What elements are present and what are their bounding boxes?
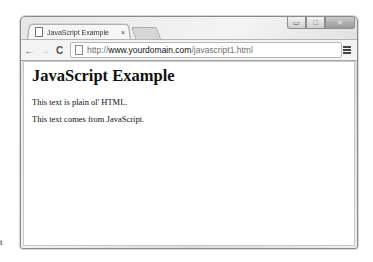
toolbar: ← → C http://www.yourdomain.com/javascri… [21, 39, 357, 61]
url-scheme: http:// [87, 45, 108, 55]
url-path: /javascript1.html [191, 45, 252, 55]
close-window-button[interactable]: ✕ [325, 17, 355, 29]
forward-button[interactable]: → [38, 43, 51, 57]
close-tab-icon[interactable]: × [121, 29, 125, 36]
maximize-icon: □ [313, 19, 317, 26]
close-icon: ✕ [337, 19, 343, 27]
hamburger-icon-bar [343, 52, 351, 54]
hamburger-icon-bar [343, 49, 351, 51]
tab-title: JavaScript Example [47, 29, 109, 36]
minimize-icon: ▭ [293, 19, 300, 27]
page-content: JavaScript Example This text is plain ol… [23, 61, 355, 246]
paragraph-javascript: This text comes from JavaScript. [32, 114, 144, 124]
forward-arrow-icon: → [40, 45, 50, 56]
reload-icon: C [56, 45, 63, 56]
minimize-button[interactable]: ▭ [287, 17, 306, 29]
page-icon [75, 45, 83, 55]
back-arrow-icon: ← [25, 45, 35, 56]
menu-button[interactable] [343, 46, 351, 54]
back-button[interactable]: ← [23, 43, 36, 57]
hamburger-icon-bar [343, 46, 351, 48]
cropped-text-fragment: t [0, 237, 3, 247]
new-tab-button[interactable] [131, 27, 161, 39]
tab-javascript-example[interactable]: JavaScript Example × [35, 25, 131, 39]
url-host: www.yourdomain.com [108, 45, 191, 55]
window-controls: ▭ □ ✕ [287, 17, 355, 29]
address-bar[interactable]: http://www.yourdomain.com/javascript1.ht… [70, 42, 342, 58]
reload-button[interactable]: C [53, 43, 66, 57]
tab-strip: JavaScript Example × [27, 23, 227, 39]
browser-window: ▭ □ ✕ JavaScript Example × ← → C http://… [20, 16, 358, 249]
page-icon [35, 27, 43, 37]
page-heading: JavaScript Example [32, 66, 175, 86]
paragraph-html: This text is plain ol' HTML. [32, 97, 128, 107]
maximize-button[interactable]: □ [306, 17, 325, 29]
